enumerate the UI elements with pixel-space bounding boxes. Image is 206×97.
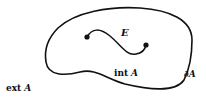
diagram-canvas: E int A ∂A ext A bbox=[0, 0, 206, 97]
curve-e bbox=[87, 30, 146, 54]
label-ext-a: ext A bbox=[6, 83, 31, 93]
curve-e-end-point bbox=[143, 42, 148, 47]
curve-e-start-point bbox=[84, 34, 89, 39]
label-ext-word: ext bbox=[6, 83, 22, 93]
label-int-word: int bbox=[114, 68, 129, 78]
label-e: E bbox=[120, 27, 129, 38]
label-int-a: int A bbox=[114, 68, 138, 78]
label-int-set: A bbox=[130, 68, 138, 78]
label-boundary: ∂A bbox=[184, 69, 196, 79]
label-ext-set: A bbox=[23, 83, 31, 93]
